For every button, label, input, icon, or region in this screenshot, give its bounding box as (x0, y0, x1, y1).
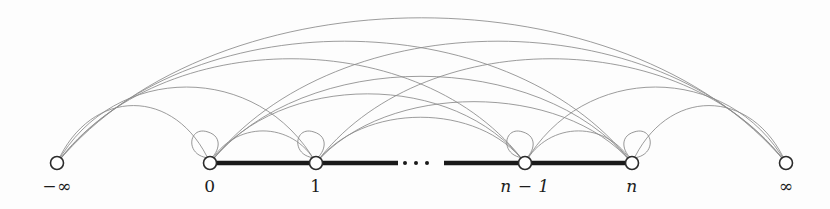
node-minus-infinity[interactable] (51, 157, 64, 170)
arc-layer (57, 18, 786, 163)
self-loop-layer (192, 131, 651, 158)
arc-n-to-plus-infinity (632, 105, 786, 163)
arc-zero-to-plus-infinity (210, 41, 786, 163)
node-label-plus-infinity: ∞ (779, 176, 794, 196)
arc-minus-infinity-to-n (57, 41, 632, 163)
node-layer (51, 157, 793, 170)
arc-one-to-plus-infinity (316, 59, 786, 163)
arc-one-to-n-minus-one (316, 117, 525, 163)
node-label-zero: 0 (204, 176, 215, 196)
arc-minus-infinity-to-zero (57, 105, 210, 163)
diagram-canvas: −∞01n − 1n∞ (0, 0, 830, 209)
node-label-n-minus-one: n − 1 (500, 176, 549, 196)
self-loop-zero (192, 131, 218, 158)
node-one[interactable] (310, 157, 323, 170)
ellipsis-dot-1 (403, 161, 407, 165)
node-zero[interactable] (204, 157, 217, 170)
node-label-n: n (626, 176, 637, 196)
node-label-minus-infinity: −∞ (42, 176, 71, 196)
ellipsis-dot-2 (414, 161, 418, 165)
arc-zero-to-n (210, 76, 632, 163)
ellipsis-layer (403, 161, 429, 165)
node-label-one: 1 (310, 176, 321, 196)
node-plus-infinity[interactable] (780, 157, 793, 170)
graph-figure (0, 0, 830, 209)
ellipsis-dot-3 (425, 161, 429, 165)
self-loop-n (624, 131, 650, 158)
arc-minus-infinity-to-plus-infinity (57, 18, 786, 163)
node-n-minus-one[interactable] (519, 157, 532, 170)
arc-one-to-n (316, 102, 632, 163)
arc-minus-infinity-to-one (57, 87, 316, 163)
arc-n-minus-one-to-plus-infinity (525, 87, 786, 163)
node-n[interactable] (626, 157, 639, 170)
self-loop-n-minus-one (507, 131, 533, 158)
